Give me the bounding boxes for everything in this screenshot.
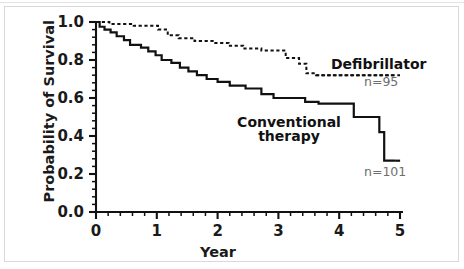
series-label-conventional-line-2: therapy: [230, 129, 348, 143]
figure-container: Probability of Survival Year 0.00.20.40.…: [0, 0, 464, 269]
series-label-conventional-line-1: Conventional: [230, 115, 348, 129]
series-n-defibrillator: n=95: [364, 76, 398, 89]
series-label-conventional: Conventionaltherapy: [230, 115, 348, 144]
series-label-defibrillator: Defibrillator: [331, 57, 426, 71]
series-n-conventional: n=101: [364, 166, 406, 179]
